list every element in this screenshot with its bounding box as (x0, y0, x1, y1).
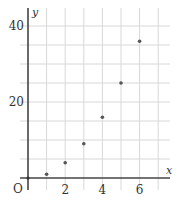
x-tick-labels: 246 (61, 183, 143, 197)
x-tick-label: 4 (99, 183, 107, 197)
origin-label: O (13, 182, 23, 196)
origin-point (26, 176, 29, 179)
data-point (138, 39, 142, 43)
x-axis-label: x (166, 164, 173, 177)
data-point (63, 161, 67, 165)
data-point (119, 81, 123, 85)
data-point (101, 115, 105, 119)
x-tick-label: 6 (136, 183, 144, 197)
scatter-chart: y x O 246 2040 (0, 0, 178, 200)
y-tick-label: 20 (9, 95, 24, 109)
data-point (45, 172, 49, 176)
grid-lines (20, 8, 170, 190)
x-tick-label: 2 (61, 183, 69, 197)
y-tick-label: 40 (9, 19, 24, 33)
data-point (82, 142, 86, 146)
y-axis-label: y (31, 6, 39, 19)
